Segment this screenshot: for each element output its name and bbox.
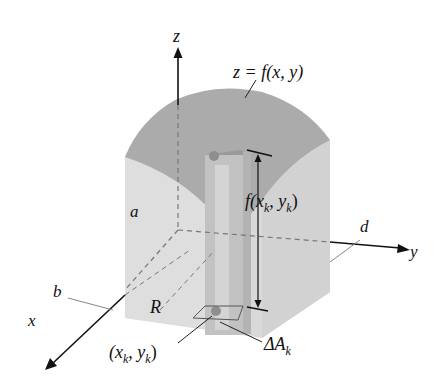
y-axis-arrow — [397, 244, 410, 253]
b-boundary-line — [68, 298, 113, 310]
top-point — [209, 151, 219, 161]
region-label: R — [149, 297, 161, 317]
column-inner — [215, 165, 229, 330]
volume-diagram: z z = f(x, y) f(xk, yk) a b x d y R (xk,… — [0, 0, 447, 382]
y-axis-label: y — [408, 242, 418, 261]
surface-label: z = f(x, y) — [232, 62, 303, 83]
y-axis — [330, 242, 400, 248]
b-label: b — [53, 282, 62, 301]
d-label: d — [360, 217, 369, 236]
z-axis-label: z — [172, 26, 180, 46]
base-point — [211, 306, 221, 316]
area-label: ΔAk — [263, 334, 292, 358]
z-axis-arrow — [174, 47, 183, 58]
a-label: a — [130, 202, 139, 221]
column-side — [243, 152, 251, 334]
point-label: (xk, yk) — [109, 342, 157, 366]
x-axis-arrow — [45, 358, 57, 370]
x-axis-label: x — [27, 311, 36, 330]
